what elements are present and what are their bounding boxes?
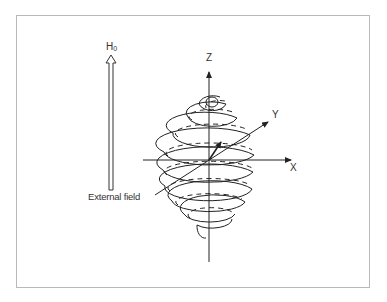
moment-vector bbox=[209, 142, 221, 160]
helix-front-arcs bbox=[156, 96, 254, 238]
field-label: H0 bbox=[106, 42, 117, 52]
external-field-caption: External field bbox=[88, 192, 140, 202]
z-axis-label: Z bbox=[206, 53, 212, 63]
y-axis-label: Y bbox=[272, 110, 279, 120]
external-field-arrow bbox=[106, 55, 116, 190]
x-axis-label: X bbox=[290, 163, 297, 173]
helix-diagram bbox=[0, 0, 387, 302]
